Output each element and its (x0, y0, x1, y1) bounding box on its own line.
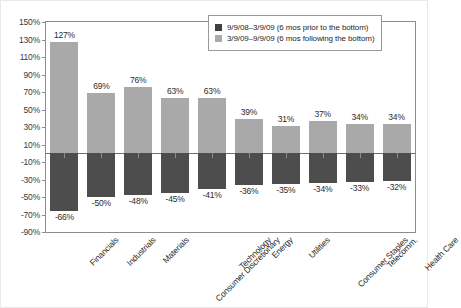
bar-value-label: -36% (231, 186, 268, 196)
x-axis-category-label: Utilities (307, 235, 332, 260)
x-axis-tick-mark (249, 153, 250, 158)
bar-value-label: -50% (83, 198, 120, 208)
bar-value-label: -32% (378, 182, 415, 192)
x-axis-tick-mark (212, 153, 213, 158)
bar-value-label: -35% (267, 185, 304, 195)
bar-value-label: 37% (304, 109, 341, 119)
bar-value-label: -45% (157, 194, 194, 204)
bar-positive (235, 119, 263, 153)
plot-inner: 150%130%110%90%70%50%30%10%-10%-30%-50%-… (46, 22, 415, 232)
bar-positive (161, 98, 189, 153)
x-axis-tick-mark (323, 153, 324, 158)
legend-swatch-dark-icon (215, 24, 222, 31)
x-axis-tick-mark (175, 153, 176, 158)
x-axis-tick-mark (360, 153, 361, 158)
bar-group: 63%-45% (157, 22, 194, 232)
bar-value-label: -48% (120, 196, 157, 206)
bar-positive (272, 126, 300, 153)
bar-negative (161, 153, 189, 192)
bar-positive (383, 124, 411, 154)
bar-value-label: 31% (267, 114, 304, 124)
x-axis-category-label: Industrials (124, 235, 157, 268)
bar-value-label: -33% (341, 183, 378, 193)
bar-positive (124, 87, 152, 154)
bar-group: 37%-34% (304, 22, 341, 232)
legend-item: 9/9/08–3/9/09 (6 mos prior to the bottom… (215, 23, 374, 32)
bar-negative (198, 153, 226, 189)
bar-group: 34%-32% (378, 22, 415, 232)
legend-label: 9/9/08–3/9/09 (6 mos prior to the bottom… (227, 23, 368, 32)
bar-value-label: -66% (46, 212, 83, 222)
bar-positive (198, 98, 226, 153)
plot-area: 150%130%110%90%70%50%30%10%-10%-30%-50%-… (45, 21, 416, 233)
bar-positive (309, 121, 337, 153)
x-axis-tick-mark (138, 153, 139, 158)
bar-value-label: 76% (120, 75, 157, 85)
bar-positive (50, 42, 78, 153)
bar-group: 63%-41% (194, 22, 231, 232)
legend-item: 3/9/09–9/9/09 (6 mos following the botto… (215, 34, 374, 43)
bar-negative (87, 153, 115, 197)
bar-value-label: -34% (304, 184, 341, 194)
bar-value-label: 127% (46, 30, 83, 40)
bar-group: 127%-66% (46, 22, 83, 232)
x-axis-tick-mark (286, 153, 287, 158)
bar-positive (87, 93, 115, 153)
x-axis-category-label: Health Care (423, 235, 461, 273)
chart-legend: 9/9/08–3/9/09 (6 mos prior to the bottom… (208, 15, 382, 51)
legend-swatch-light-icon (215, 35, 222, 42)
legend-label: 3/9/09–9/9/09 (6 mos following the botto… (227, 34, 374, 43)
bar-series-group: 127%-66%69%-50%76%-48%63%-45%63%-41%39%-… (46, 22, 415, 232)
bar-group: 76%-48% (120, 22, 157, 232)
x-axis-category-label: Materials (160, 235, 190, 265)
bar-value-label: -41% (194, 190, 231, 200)
bar-value-label: 39% (231, 107, 268, 117)
x-axis-category-label: Consumer Discretionary (213, 235, 281, 303)
bar-negative (50, 153, 78, 211)
bar-negative (124, 153, 152, 195)
bar-value-label: 34% (378, 112, 415, 122)
bar-group: 39%-36% (231, 22, 268, 232)
x-axis-category-label: Consumer Staples (356, 235, 410, 289)
x-axis-category-label: Financials (87, 235, 120, 268)
bar-group: 34%-33% (341, 22, 378, 232)
x-axis-tick-mark (64, 153, 65, 158)
bar-value-label: 69% (83, 81, 120, 91)
bar-group: 31%-35% (267, 22, 304, 232)
bar-positive (346, 124, 374, 154)
x-axis-tick-mark (397, 153, 398, 158)
bar-value-label: 34% (341, 112, 378, 122)
bar-value-label: 63% (194, 86, 231, 96)
x-axis-labels: FinancialsIndustrialsMaterialsConsumer D… (45, 235, 416, 307)
bar-value-label: 63% (157, 86, 194, 96)
bar-group: 69%-50% (83, 22, 120, 232)
x-axis-tick-mark (101, 153, 102, 158)
y-axis-tick-mark (42, 232, 46, 233)
